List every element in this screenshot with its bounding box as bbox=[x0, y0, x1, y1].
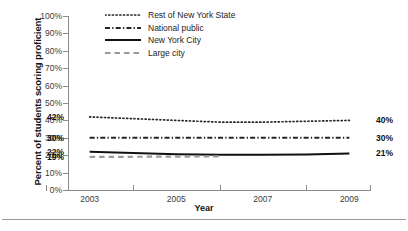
y-tick-label: 50% bbox=[28, 98, 62, 108]
y-tick-label: 90% bbox=[28, 28, 62, 38]
footer-divider bbox=[2, 219, 406, 220]
legend-item-label: New York City bbox=[148, 35, 201, 45]
legend-item[interactable]: Large city bbox=[105, 47, 295, 60]
x-tick-mark bbox=[46, 185, 47, 191]
chart-legend: Rest of New York StateNational publicNew… bbox=[105, 9, 295, 59]
y-tick-mark bbox=[63, 68, 68, 69]
y-tick-label: 10% bbox=[28, 168, 62, 178]
series-line bbox=[90, 117, 350, 122]
y-tick-label: 80% bbox=[28, 46, 62, 56]
legend-item[interactable]: National public bbox=[105, 22, 295, 35]
x-tick-mark bbox=[133, 185, 134, 191]
y-tick-mark bbox=[63, 33, 68, 34]
legend-item-label: Large city bbox=[148, 48, 185, 58]
legend-line-swatch-dashed-icon bbox=[105, 48, 141, 58]
legend-line-swatch-dash-dot-icon bbox=[105, 23, 141, 33]
y-tick-mark bbox=[63, 86, 68, 87]
x-tick-mark bbox=[306, 185, 307, 191]
y-tick-label: 100% bbox=[28, 11, 62, 21]
series-start-value-label: 19% bbox=[47, 152, 64, 162]
x-axis-title: Year bbox=[0, 203, 408, 213]
x-axis-right-cap bbox=[370, 185, 371, 191]
y-tick-mark bbox=[63, 16, 68, 17]
series-end-value-label: 21% bbox=[376, 148, 393, 158]
y-tick-label: 60% bbox=[28, 81, 62, 91]
series-end-value-label: 30% bbox=[376, 133, 393, 143]
legend-item-label: National public bbox=[148, 23, 204, 33]
series-start-value-label: 30% bbox=[47, 133, 64, 143]
legend-item[interactable]: New York City bbox=[105, 34, 295, 47]
legend-item[interactable]: Rest of New York State bbox=[105, 9, 295, 22]
x-tick-mark bbox=[220, 185, 221, 191]
legend-line-swatch-solid-icon bbox=[105, 35, 141, 45]
y-tick-mark bbox=[63, 190, 68, 191]
y-tick-mark bbox=[63, 103, 68, 104]
series-start-value-label: 42% bbox=[47, 112, 64, 122]
y-axis-line bbox=[68, 16, 69, 191]
chart-figure: Percent of students scoring proficient 1… bbox=[0, 0, 408, 231]
legend-item-label: Rest of New York State bbox=[148, 10, 235, 20]
legend-line-swatch-dotted-icon bbox=[105, 10, 141, 20]
y-axis-tick-labels: 100%90%80%70%60%50%40%30%20%10%0% bbox=[28, 10, 62, 196]
series-line bbox=[90, 156, 220, 157]
y-tick-mark bbox=[63, 51, 68, 52]
series-end-value-label: 40% bbox=[376, 115, 393, 125]
y-tick-label: 0% bbox=[28, 185, 62, 195]
series-line bbox=[90, 152, 350, 155]
y-tick-mark bbox=[63, 173, 68, 174]
y-tick-label: 70% bbox=[28, 63, 62, 73]
